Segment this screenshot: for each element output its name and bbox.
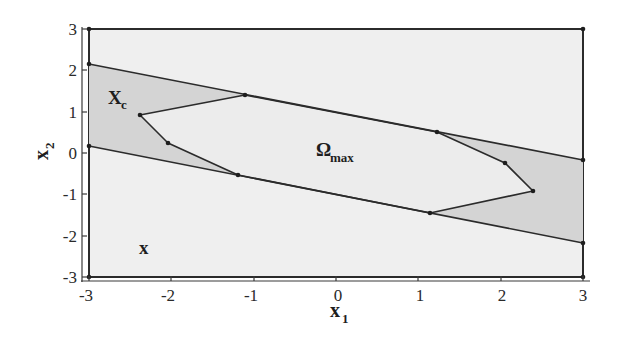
svg-text:1: 1 xyxy=(69,103,78,122)
svg-text:-3: -3 xyxy=(79,286,93,305)
svg-text:-2: -2 xyxy=(161,286,175,305)
svg-text:-3: -3 xyxy=(63,268,77,287)
phase-plot: 3 2 1 0 -1 -2 -3 -3 -2 -1 0 1 2 3 x 1 x … xyxy=(0,0,621,345)
svg-text:2: 2 xyxy=(69,61,78,80)
svg-text:max: max xyxy=(330,150,354,165)
svg-text:Ω: Ω xyxy=(316,139,331,160)
y-tick-labels: 3 2 1 0 -1 -2 -3 xyxy=(63,20,77,287)
svg-text:-1: -1 xyxy=(244,286,258,305)
svg-text:x: x xyxy=(330,299,340,321)
svg-text:3: 3 xyxy=(579,286,588,305)
state-set-label: x xyxy=(139,237,149,258)
svg-text:c: c xyxy=(121,97,127,112)
svg-text:x: x xyxy=(30,150,52,160)
svg-text:1: 1 xyxy=(416,286,425,305)
svg-text:3: 3 xyxy=(69,20,78,39)
x-axis-label: x 1 xyxy=(330,299,349,326)
y-ticks xyxy=(82,29,87,277)
svg-text:X: X xyxy=(108,87,122,108)
svg-text:1: 1 xyxy=(342,311,349,326)
y-axis-label: x 2 xyxy=(30,143,57,161)
svg-text:0: 0 xyxy=(69,144,78,163)
svg-text:2: 2 xyxy=(498,286,507,305)
svg-text:2: 2 xyxy=(42,143,57,150)
svg-text:-1: -1 xyxy=(63,185,77,204)
svg-text:-2: -2 xyxy=(63,227,77,246)
